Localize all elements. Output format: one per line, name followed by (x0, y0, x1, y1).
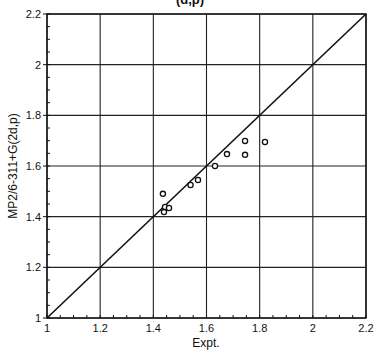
y-tick-label: 1.8 (26, 109, 41, 121)
y-tick-label: 1.2 (26, 261, 41, 273)
data-point (161, 210, 166, 215)
data-point (242, 138, 247, 143)
x-axis-label: Expt. (192, 336, 219, 350)
data-point (166, 205, 171, 210)
chart-title: (d,p) (176, 0, 204, 7)
y-tick-label: 1.4 (26, 211, 41, 223)
data-point (160, 191, 165, 196)
y-axis-label: MP2/6-311+G(2d,p) (6, 113, 20, 219)
data-point (188, 182, 193, 187)
x-tick-label: 2 (310, 322, 316, 334)
data-point (242, 152, 247, 157)
y-tick-label: 1.6 (26, 160, 41, 172)
x-tick-label: 2.2 (358, 322, 373, 334)
x-tick-label: 1.2 (93, 322, 108, 334)
x-tick-label: 1 (44, 322, 50, 334)
x-tick-label: 1.6 (199, 322, 214, 334)
scatter-chart: (d,p) 11.21.41.61.822.211.21.41.61.822.2… (0, 0, 380, 356)
data-point (262, 139, 267, 144)
data-point (224, 151, 229, 156)
y-tick-label: 2.2 (26, 8, 41, 20)
data-points (160, 138, 267, 214)
x-tick-label: 1.4 (146, 322, 161, 334)
y-tick-label: 2 (35, 59, 41, 71)
data-point (195, 177, 200, 182)
y-tick-label: 1 (35, 312, 41, 324)
x-tick-label: 1.8 (252, 322, 267, 334)
data-point (212, 163, 217, 168)
